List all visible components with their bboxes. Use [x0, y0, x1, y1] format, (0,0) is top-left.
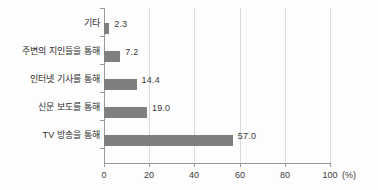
gridline-100	[330, 8, 331, 163]
bar-4	[104, 135, 233, 146]
x-tick-label-40: 40	[189, 170, 199, 180]
x-tick-100	[330, 163, 331, 167]
bar-value-3: 19.0	[152, 103, 170, 113]
plot-area: 2.3 7.2 14.4 19.0 57.0	[104, 8, 330, 163]
x-tick-60	[240, 163, 241, 167]
category-label-4: TV 방송을 통해	[0, 128, 100, 141]
bar-value-2: 14.4	[142, 75, 160, 85]
axis-unit-label: (%)	[342, 170, 356, 180]
bar-0	[104, 23, 109, 34]
bar-3	[104, 107, 147, 118]
x-tick-label-80: 80	[280, 170, 290, 180]
gridline-80	[285, 8, 286, 163]
category-tick	[100, 92, 104, 93]
x-tick-label-20: 20	[144, 170, 154, 180]
category-label-1: 주변의 지인들을 통해	[0, 44, 100, 57]
category-tick	[100, 36, 104, 37]
category-tick	[100, 148, 104, 149]
x-axis-line	[104, 163, 330, 164]
category-label-3: 신문 보도를 통해	[0, 100, 100, 113]
x-tick-80	[285, 163, 286, 167]
x-tick-20	[149, 163, 150, 167]
bar-value-1: 7.2	[125, 47, 138, 57]
bar-1	[104, 51, 120, 62]
bar-2	[104, 79, 137, 90]
bar-value-4: 57.0	[238, 131, 256, 141]
x-tick-label-60: 60	[235, 170, 245, 180]
x-tick-label-0: 0	[101, 170, 106, 180]
x-tick-label-100: 100	[322, 170, 337, 180]
bar-chart: 2.3 7.2 14.4 19.0 57.0 기타 주변의 지인들을 통해 인터…	[0, 0, 378, 190]
category-label-0: 기타	[0, 16, 100, 29]
x-tick-40	[194, 163, 195, 167]
category-tick	[100, 120, 104, 121]
x-tick-0	[104, 163, 105, 167]
category-label-2: 인터넷 기사를 통해	[0, 72, 100, 85]
category-tick	[100, 64, 104, 65]
bar-value-0: 2.3	[114, 19, 127, 29]
category-tick	[100, 8, 104, 9]
